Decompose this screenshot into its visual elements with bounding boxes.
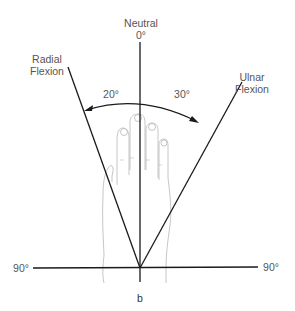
ulnar-arrowhead: [189, 116, 199, 123]
left-90-label: 90°: [10, 262, 32, 274]
right-90-label: 90°: [260, 261, 282, 273]
neutral-angle: 0°: [118, 29, 164, 41]
radial-text-line1: Radial: [28, 53, 66, 65]
ulnar-flexion-label: Ulnar Flexion: [232, 71, 272, 95]
ulnar-flexion-line: [140, 82, 242, 268]
ulnar-angle-label: 30°: [171, 88, 193, 100]
ulnar-text-line2: Flexion: [232, 83, 272, 95]
panel-label: b: [134, 292, 146, 304]
radial-flexion-label: Radial Flexion: [28, 53, 66, 77]
neutral-label: Neutral 0°: [118, 17, 164, 41]
ulnar-text-line1: Ulnar: [232, 71, 272, 83]
wrist-diagram: [0, 0, 295, 311]
radial-angle-label: 20°: [100, 88, 122, 100]
horizontal-90-line: [33, 267, 258, 268]
radial-arrowhead: [84, 105, 93, 111]
radial-text-line2: Flexion: [28, 65, 66, 77]
neutral-text: Neutral: [118, 17, 164, 29]
